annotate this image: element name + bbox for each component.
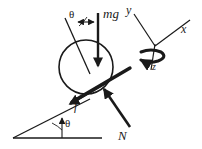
ball-circle [59, 40, 113, 94]
axis-x-label: x [180, 22, 187, 36]
axis-y-label: y [125, 3, 132, 17]
physics-diagram: mg θ f N θ y x z [0, 0, 202, 149]
theta-slope-label: θ [65, 117, 70, 129]
normal-label: N [117, 128, 128, 143]
axis-y-line [134, 14, 155, 46]
normal-arrow [104, 89, 130, 127]
incline-hypotenuse [13, 99, 90, 138]
slope-angle-arc [52, 123, 62, 130]
mg-label: mg [103, 6, 119, 21]
friction-label: f [74, 99, 79, 113]
theta-top-label: θ [69, 8, 74, 20]
axis-z-label: z [151, 61, 156, 72]
diagram-canvas: mg θ f N θ y x z [0, 0, 202, 149]
